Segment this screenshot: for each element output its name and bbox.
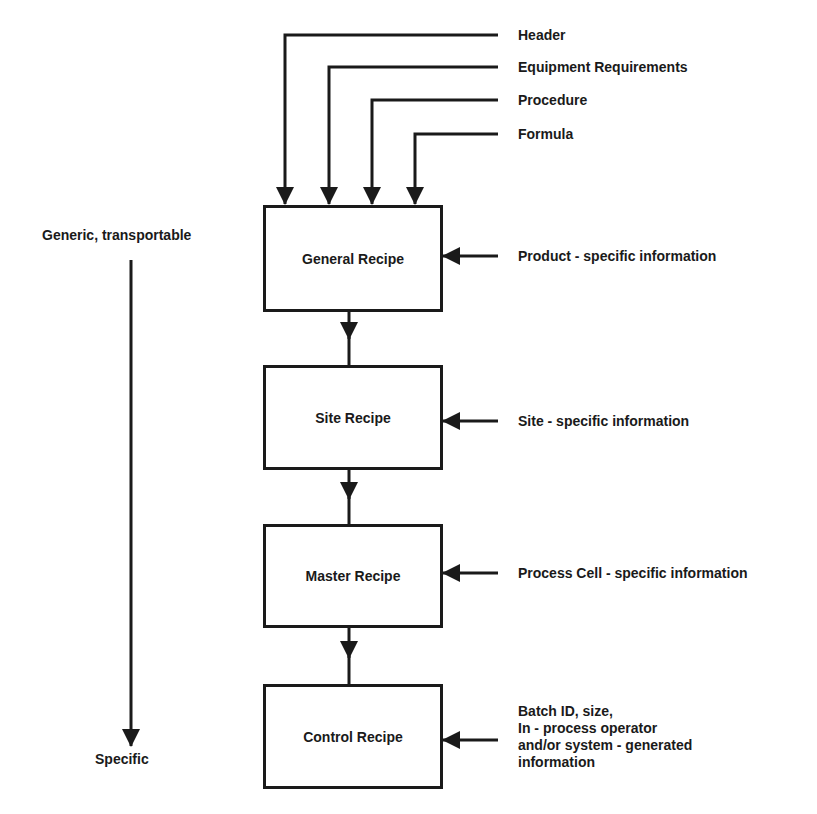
general-recipe-box: General Recipe bbox=[263, 205, 443, 312]
formula-connector bbox=[415, 134, 498, 204]
product-specific-label: Product - specific information bbox=[518, 248, 716, 265]
specific-label: Specific bbox=[95, 751, 149, 768]
input-label-header: Header bbox=[518, 27, 565, 44]
batch-info-line-1: Batch ID, size, bbox=[518, 703, 692, 720]
master-recipe-label: Master Recipe bbox=[306, 568, 401, 584]
header-connector bbox=[285, 35, 498, 204]
input-label-formula: Formula bbox=[518, 126, 573, 143]
general-recipe-label: General Recipe bbox=[302, 251, 404, 267]
process-cell-specific-label: Process Cell - specific information bbox=[518, 565, 748, 582]
batch-info-line-4: information bbox=[518, 754, 692, 771]
site-recipe-box: Site Recipe bbox=[263, 365, 443, 470]
site-specific-label: Site - specific information bbox=[518, 413, 689, 430]
generic-transportable-label: Generic, transportable bbox=[42, 227, 191, 244]
input-label-equipment-requirements: Equipment Requirements bbox=[518, 59, 688, 76]
input-label-procedure: Procedure bbox=[518, 92, 587, 109]
control-recipe-label: Control Recipe bbox=[303, 729, 403, 745]
procedure-connector bbox=[372, 100, 498, 204]
control-recipe-box: Control Recipe bbox=[263, 684, 443, 789]
batch-info-line-2: In - process operator bbox=[518, 720, 692, 737]
batch-info-label: Batch ID, size, In - process operator an… bbox=[518, 703, 692, 771]
master-recipe-box: Master Recipe bbox=[263, 524, 443, 628]
batch-info-line-3: and/or system - generated bbox=[518, 737, 692, 754]
site-recipe-label: Site Recipe bbox=[315, 410, 390, 426]
